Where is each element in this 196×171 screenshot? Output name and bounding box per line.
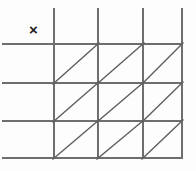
diagonal-r1c3 — [142, 43, 183, 84]
diagonal-r3c1 — [53, 120, 99, 159]
diagonals-group — [53, 43, 183, 159]
figure-canvas: × — [0, 0, 196, 171]
diagonal-r2c3 — [142, 82, 183, 122]
diagonal-r3c2 — [97, 120, 144, 159]
diagonal-r2c1 — [53, 82, 99, 122]
horizontal-lines-group — [2, 44, 183, 158]
diagonal-r1c1 — [53, 43, 99, 84]
diagonal-r3c3 — [142, 120, 183, 159]
diagonal-r2c2 — [97, 82, 144, 122]
diagonal-r1c2 — [97, 43, 144, 84]
x-mark: × — [29, 22, 38, 37]
